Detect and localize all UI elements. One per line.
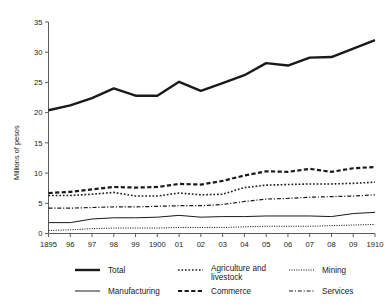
x-tick-label-98: 98 (110, 240, 118, 249)
legend-label-total: Total (108, 266, 125, 275)
y-tick-label-30: 30 (34, 48, 42, 57)
y-tick-label-35: 35 (34, 18, 42, 27)
series-line-total (49, 40, 376, 110)
legend-item-manufacturing[interactable]: Manufacturing (75, 287, 160, 296)
line-chart: Millions of pesos 05101520253035 1895969… (0, 0, 387, 304)
series-line-mining (49, 224, 376, 230)
series-line-manufacturing (49, 212, 376, 222)
y-tick-group: 05101520253035 (34, 18, 48, 239)
x-tick-label-99: 99 (131, 240, 139, 249)
y-axis-label: Millions of pesos (12, 125, 21, 180)
series-group (49, 40, 376, 230)
series-line-commerce (49, 167, 376, 193)
x-tick-label-09: 09 (349, 240, 357, 249)
chart-page: Millions of pesos 05101520253035 1895969… (0, 0, 387, 304)
y-tick-label-15: 15 (34, 139, 42, 148)
x-tick-label-06: 06 (284, 240, 292, 249)
y-tick-label-0: 0 (38, 229, 42, 238)
legend-label-manufacturing: Manufacturing (108, 287, 160, 296)
x-tick-label-1895: 1895 (40, 240, 57, 249)
y-tick-label-5: 5 (38, 199, 42, 208)
y-tick-label-20: 20 (34, 108, 42, 117)
x-tick-label-97: 97 (88, 240, 96, 249)
x-tick-label-96: 96 (66, 240, 74, 249)
legend-label-services: Services (322, 287, 353, 296)
x-tick-label-1910: 1910 (367, 240, 384, 249)
x-tick-label-07: 07 (305, 240, 313, 249)
legend-item-commerce[interactable]: Commerce (178, 287, 251, 296)
x-tick-label-1900: 1900 (149, 240, 166, 249)
x-tick-label-04: 04 (240, 240, 248, 249)
chart-legend: Total Agriculture and livestock Mining M… (75, 264, 353, 296)
legend-item-total[interactable]: Total (75, 266, 125, 275)
legend-item-agriculture[interactable]: Agriculture and livestock (178, 264, 267, 282)
x-tick-label-08: 08 (327, 240, 335, 249)
x-tick-label-01: 01 (175, 240, 183, 249)
legend-label-mining: Mining (322, 266, 347, 275)
legend-item-mining[interactable]: Mining (289, 266, 347, 275)
x-tick-label-02: 02 (197, 240, 205, 249)
x-tick-label-03: 03 (218, 240, 226, 249)
legend-label-commerce: Commerce (211, 287, 251, 296)
y-tick-label-25: 25 (34, 78, 42, 87)
series-line-services (49, 195, 376, 208)
legend-label-agriculture-line2: livestock (211, 273, 243, 282)
y-tick-label-10: 10 (34, 169, 42, 178)
legend-item-services[interactable]: Services (289, 287, 353, 296)
x-tick-label-05: 05 (262, 240, 270, 249)
x-tick-group: 18959697989919000102030405060708091910 (40, 234, 383, 249)
legend-label-agriculture-line1: Agriculture and (211, 264, 267, 273)
